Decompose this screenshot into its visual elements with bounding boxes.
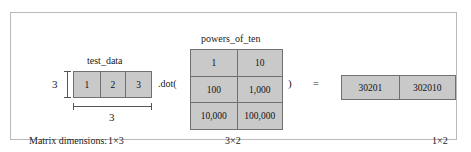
table-row: 30201 302010 — [342, 76, 455, 99]
bracket-cap-right — [151, 103, 152, 110]
cell: 10,000 — [191, 103, 237, 129]
bracket-stem — [67, 71, 68, 98]
cell: 10 — [237, 50, 283, 76]
dimension-test-data: 1×3 — [108, 135, 124, 147]
cell: 30201 — [342, 76, 399, 99]
cell: 302010 — [399, 76, 456, 99]
cols-dimension-marker: 3 — [109, 111, 115, 123]
cols-bracket-icon — [73, 103, 152, 110]
figure-canvas: powers_of_ten test_data 3 1 2 3 3 .dot( — [0, 0, 471, 152]
cell: 1,000 — [237, 77, 283, 103]
matrix-result: 30201 302010 — [341, 75, 456, 100]
equals-operator: = — [313, 78, 319, 90]
matrix-powers-of-ten: 1 10 100 1,000 10,000 100,000 — [190, 49, 283, 130]
cell: 2 — [100, 72, 126, 97]
table-row: 1 10 — [191, 50, 282, 76]
table-row: 10,000 100,000 — [191, 102, 282, 129]
rows-dimension-marker: 3 — [52, 78, 58, 90]
cell: 1 — [74, 72, 100, 97]
rows-bracket-icon — [64, 71, 71, 98]
dimension-powers-of-ten: 3×2 — [225, 135, 241, 147]
dot-operator: .dot( — [158, 78, 177, 90]
table-row: 1 2 3 — [74, 72, 151, 97]
test-data-label: test_data — [87, 55, 123, 67]
cell: 3 — [125, 72, 151, 97]
close-paren-operator: ) — [288, 77, 292, 89]
cell: 100,000 — [237, 103, 283, 129]
matrix-test-data: 1 2 3 — [73, 71, 152, 98]
figure-frame: powers_of_ten test_data 3 1 2 3 3 .dot( — [10, 12, 457, 140]
matrix-dimensions-label: Matrix dimensions: — [29, 135, 107, 147]
cell: 100 — [191, 77, 237, 103]
powers-of-ten-label: powers_of_ten — [201, 33, 260, 45]
dimension-result: 1×2 — [432, 135, 448, 147]
bracket-cap-bottom — [64, 97, 71, 98]
bracket-stem — [73, 106, 152, 107]
table-row: 100 1,000 — [191, 76, 282, 103]
cell: 1 — [191, 50, 237, 76]
